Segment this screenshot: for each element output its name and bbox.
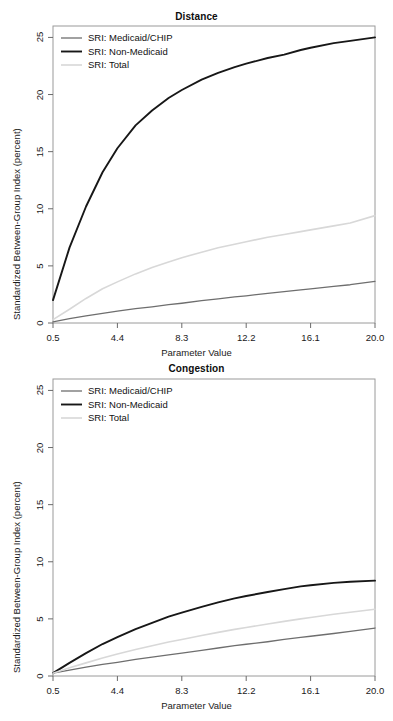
y-tick-label: 15 <box>34 499 45 510</box>
legend-label: SRI: Non-Medicaid <box>88 399 168 410</box>
x-axis-title: Parameter Value <box>0 700 393 711</box>
x-tick-label: 20.0 <box>366 332 385 343</box>
x-tick-label: 4.4 <box>111 332 124 343</box>
chart-panel-congestion: Congestion Parameter Value Standardized … <box>0 358 393 721</box>
x-tick-label: 16.1 <box>301 332 320 343</box>
legend-label: SRI: Total <box>88 412 129 423</box>
y-tick-label: 25 <box>34 385 45 396</box>
y-axis-title: Standardized Between-Group Index (percen… <box>11 128 22 320</box>
y-tick-label: 0 <box>34 673 45 678</box>
y-axis-title: Standardized Between-Group Index (percen… <box>11 481 22 673</box>
chart-panel-distance: Distance Parameter Value Standardized Be… <box>0 0 393 358</box>
x-tick-label: 0.5 <box>46 332 59 343</box>
y-tick-label: 0 <box>34 320 45 325</box>
x-tick-label: 8.3 <box>175 685 188 696</box>
legend-label: SRI: Medicaid/CHIP <box>88 32 172 43</box>
x-axis-title: Parameter Value <box>0 347 393 358</box>
x-tick-label: 4.4 <box>111 685 124 696</box>
plot-area-congestion <box>0 358 393 721</box>
figure-container: Distance Parameter Value Standardized Be… <box>0 0 393 721</box>
y-tick-label: 5 <box>34 263 45 268</box>
y-tick-label: 20 <box>34 442 45 453</box>
y-tick-label: 10 <box>34 556 45 567</box>
x-tick-label: 12.2 <box>237 685 256 696</box>
x-tick-label: 8.3 <box>175 332 188 343</box>
y-tick-label: 25 <box>34 32 45 43</box>
y-tick-label: 20 <box>34 89 45 100</box>
y-tick-label: 5 <box>34 616 45 621</box>
x-tick-label: 12.2 <box>237 332 256 343</box>
legend-label: SRI: Medicaid/CHIP <box>88 385 172 396</box>
legend-label: SRI: Total <box>88 59 129 70</box>
x-tick-label: 16.1 <box>301 685 320 696</box>
y-tick-label: 10 <box>34 203 45 214</box>
legend-label: SRI: Non-Medicaid <box>88 46 168 57</box>
plot-area-distance <box>0 0 393 358</box>
x-tick-label: 20.0 <box>366 685 385 696</box>
x-tick-label: 0.5 <box>46 685 59 696</box>
y-tick-label: 15 <box>34 146 45 157</box>
